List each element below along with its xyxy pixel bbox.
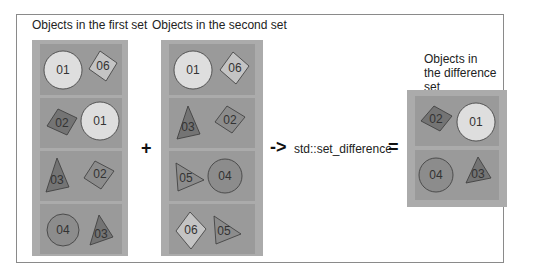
- svg-text:02: 02: [223, 113, 237, 127]
- diamond-02-icon: 02: [84, 161, 114, 189]
- svg-text:04: 04: [429, 168, 443, 182]
- svg-text:01: 01: [186, 63, 200, 77]
- circle-01-icon: 01: [44, 51, 82, 89]
- svg-text:06: 06: [228, 61, 242, 75]
- difference-set-row-1: 02 01: [415, 96, 499, 146]
- svg-text:03: 03: [471, 167, 485, 181]
- first-set-box: 01 06 02 01 03 02 04 03: [32, 40, 128, 256]
- diamond-06-icon: 06: [89, 51, 117, 81]
- triangle-03-icon: 03: [90, 215, 113, 245]
- first-set-row-2: 02 01: [40, 98, 122, 148]
- difference-set-label: Objects in the difference set: [424, 52, 497, 94]
- svg-text:03: 03: [181, 120, 195, 134]
- arrow-operator: ->: [270, 137, 287, 158]
- second-set-label: Objects in the second set: [152, 18, 287, 32]
- first-set-label: Objects in the first set: [32, 18, 147, 32]
- svg-text:06: 06: [96, 59, 110, 73]
- diamond-06-icon: 06: [176, 212, 206, 249]
- svg-text:02: 02: [55, 116, 69, 130]
- diamond-02-icon: 02: [215, 106, 245, 133]
- diamond-02-icon: 02: [47, 109, 77, 135]
- svg-text:01: 01: [93, 114, 107, 128]
- difference-set-box: 02 01 04 03: [407, 90, 507, 207]
- first-set-row-1: 01 06: [40, 44, 122, 95]
- svg-text:04: 04: [56, 223, 70, 237]
- circle-04-icon: 04: [208, 159, 242, 193]
- triangle-03-icon: 03: [177, 106, 200, 139]
- circle-04-icon: 04: [419, 158, 453, 192]
- difference-set-label-line1: Objects in: [424, 52, 497, 66]
- svg-text:05: 05: [217, 224, 231, 238]
- second-set-row-1: 01 06: [169, 44, 255, 95]
- plus-operator: +: [141, 138, 152, 159]
- svg-text:01: 01: [56, 63, 70, 77]
- svg-text:05: 05: [179, 171, 193, 185]
- svg-text:03: 03: [50, 173, 64, 187]
- triangle-03-icon: 03: [46, 158, 69, 192]
- triangle-05-icon: 05: [176, 163, 204, 191]
- svg-text:02: 02: [429, 112, 443, 126]
- svg-text:06: 06: [184, 223, 198, 237]
- svg-text:02: 02: [93, 167, 107, 181]
- difference-set-row-2: 04 03: [415, 150, 499, 200]
- circle-04-icon: 04: [47, 214, 79, 246]
- svg-text:01: 01: [469, 115, 483, 129]
- circle-01-icon: 01: [81, 102, 119, 140]
- first-set-row-3: 03 02: [40, 151, 122, 201]
- second-set-row-2: 03 02: [169, 98, 255, 148]
- svg-text:04: 04: [218, 169, 232, 183]
- equals-operator: =: [388, 137, 399, 158]
- second-set-box: 01 06 03 02 05 04 06 05: [161, 40, 263, 256]
- function-name: std::set_difference: [294, 142, 392, 156]
- diamond-06-icon: 06: [220, 52, 249, 84]
- triangle-05-icon: 05: [214, 216, 241, 244]
- first-set-row-4: 04 03: [40, 204, 122, 254]
- difference-set-label-line2: the difference: [424, 66, 497, 80]
- second-set-row-4: 06 05: [169, 204, 255, 254]
- svg-text:03: 03: [94, 227, 108, 241]
- diamond-02-icon: 02: [421, 106, 452, 131]
- circle-01-icon: 01: [457, 103, 495, 141]
- second-set-row-3: 05 04: [169, 151, 255, 201]
- circle-01-icon: 01: [174, 51, 212, 89]
- triangle-03-icon: 03: [466, 157, 491, 183]
